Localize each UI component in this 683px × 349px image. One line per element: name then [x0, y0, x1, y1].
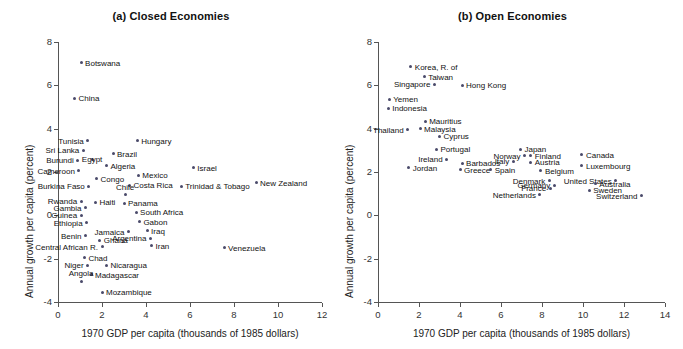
y-tick: [54, 129, 58, 130]
x-tick-label: 6: [489, 309, 513, 320]
point-label: Trinidad & Tobago: [185, 182, 250, 191]
data-point: [83, 256, 86, 259]
y-tick: [54, 42, 58, 43]
y-tick-label: -2: [32, 253, 52, 264]
point-label: Hungary: [141, 136, 171, 145]
x-tick: [460, 303, 461, 307]
point-label: Israel: [197, 163, 217, 172]
x-tick: [624, 303, 625, 307]
y-axis-line: [378, 42, 379, 302]
y-tick: [374, 172, 378, 173]
point-label: China: [79, 94, 100, 103]
x-tick-label: 12: [612, 309, 636, 320]
data-point: [438, 135, 441, 138]
point-label: Botswana: [85, 58, 120, 67]
x-tick: [234, 303, 235, 307]
point-label: Iran: [156, 241, 170, 250]
data-point: [409, 65, 412, 68]
y-tick-label: 8: [352, 36, 372, 47]
y-tick-label: -2: [352, 253, 372, 264]
data-point: [435, 148, 438, 151]
y-tick-label: 6: [352, 79, 372, 90]
data-point: [137, 174, 140, 177]
y-tick-label: 6: [32, 79, 52, 90]
data-point: [489, 168, 492, 171]
data-point: [512, 160, 515, 163]
y-tick-label: 2: [352, 166, 372, 177]
point-label: Congo: [101, 174, 125, 183]
data-point: [640, 194, 643, 197]
data-point: [85, 221, 88, 224]
data-point: [419, 127, 422, 130]
data-point: [80, 214, 83, 217]
point-label: Ghana: [104, 236, 128, 245]
x-tick: [278, 303, 279, 307]
point-label: Cyprus: [444, 132, 469, 141]
point-label: Madagascar: [95, 270, 139, 279]
x-tick: [665, 303, 666, 307]
point-label: Korea, R. of: [415, 62, 458, 71]
data-point: [82, 149, 85, 152]
data-point: [87, 185, 90, 188]
point-label: Chile: [116, 183, 134, 192]
data-point: [223, 246, 226, 249]
point-label: Chad: [88, 253, 107, 262]
figure-dual-scatter: (a) Closed Economies -4-2024680246810121…: [0, 0, 683, 349]
point-label: Taiwan: [428, 72, 453, 81]
data-point: [150, 244, 153, 247]
point-label: Burundi: [46, 156, 74, 165]
data-point: [580, 164, 583, 167]
data-point: [80, 280, 83, 283]
point-label: Panama: [128, 199, 158, 208]
panel-closed-economies: (a) Closed Economies -4-2024680246810121…: [0, 0, 342, 349]
data-point: [149, 237, 152, 240]
data-point: [387, 107, 390, 110]
x-tick-label: 0: [46, 309, 70, 320]
data-point: [388, 98, 391, 101]
y-tick: [374, 259, 378, 260]
data-point: [95, 177, 98, 180]
data-point: [192, 166, 195, 169]
data-point: [255, 181, 258, 184]
data-point: [94, 201, 97, 204]
data-point: [553, 184, 556, 187]
point-label: Benin: [61, 231, 81, 240]
data-point: [459, 168, 462, 171]
point-label: Cameroon: [38, 166, 75, 175]
x-tick-label: 2: [90, 309, 114, 320]
point-label: Hong Kong: [466, 81, 506, 90]
x-tick-label: 12: [310, 309, 334, 320]
x-tick-label: 10: [571, 309, 595, 320]
y-tick-label: 0: [352, 209, 372, 220]
point-label: Mexico: [142, 171, 167, 180]
data-point: [73, 97, 76, 100]
data-point: [123, 202, 126, 205]
y-tick-label: 8: [32, 36, 52, 47]
point-label: Yemen: [393, 95, 418, 104]
point-label: Sri Lanka: [46, 146, 80, 155]
point-label: Thailand: [373, 125, 404, 134]
data-point: [77, 169, 80, 172]
point-label: Niger: [65, 261, 84, 270]
x-tick: [322, 303, 323, 307]
y-tick-label: 0: [32, 209, 52, 220]
y-tick: [54, 85, 58, 86]
y-tick: [374, 42, 378, 43]
x-tick-label: 14: [653, 309, 677, 320]
data-point: [445, 158, 448, 161]
data-point: [580, 153, 583, 156]
point-label: Algeria: [110, 161, 135, 170]
x-tick: [190, 303, 191, 307]
data-point: [407, 166, 410, 169]
x-tick-label: 10: [266, 309, 290, 320]
data-point: [84, 206, 87, 209]
data-point: [135, 211, 138, 214]
x-tick-label: 4: [134, 309, 158, 320]
y-tick-label: 4: [352, 123, 372, 134]
point-label: Austria: [535, 158, 560, 167]
data-point: [136, 139, 139, 142]
point-label: Costa Rica: [134, 181, 173, 190]
x-axis-title: 1970 GDP per capita (thousands of 1985 d…: [18, 328, 362, 339]
point-label: Portugal: [440, 145, 470, 154]
x-tick: [102, 303, 103, 307]
